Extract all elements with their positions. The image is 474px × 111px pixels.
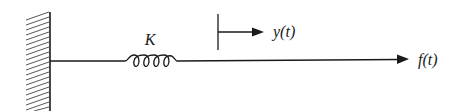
displacement-arrowhead-icon xyxy=(252,28,264,37)
displacement-marker xyxy=(218,14,264,50)
wall-hatching xyxy=(26,12,49,111)
fixed-wall xyxy=(26,12,50,111)
force-label: f(t) xyxy=(418,51,438,69)
displacement-label: y(t) xyxy=(271,23,295,41)
spring-label: K xyxy=(144,31,157,48)
spring-system-diagram: K f(t) y(t) xyxy=(0,0,474,111)
rod-right xyxy=(177,60,400,62)
force-arrowhead-icon xyxy=(397,55,409,65)
spring-icon xyxy=(125,55,177,66)
